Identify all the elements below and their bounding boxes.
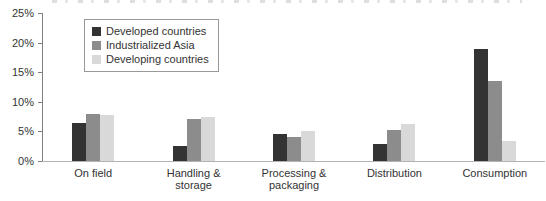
x-category-label: On field — [43, 167, 143, 191]
legend-swatch-icon — [92, 27, 101, 36]
bar — [201, 117, 215, 161]
bar-chart: 25%20%15%10%5%0% Developed countriesIndu… — [0, 0, 546, 201]
x-category-label: Consumption — [445, 167, 545, 191]
bar — [301, 131, 315, 161]
x-category-label: Distribution — [344, 167, 444, 191]
bar — [173, 146, 187, 161]
x-category-label: Processing & packaging — [244, 167, 344, 191]
bar — [100, 115, 114, 161]
bar — [502, 141, 516, 161]
y-tick-label: 25% — [2, 7, 34, 19]
y-tick-label: 5% — [2, 125, 34, 137]
y-tick-label: 20% — [2, 37, 34, 49]
bar-group — [344, 13, 444, 161]
legend-item: Industrialized Asia — [92, 39, 209, 52]
bar — [86, 114, 100, 161]
bar — [373, 144, 387, 161]
bar — [387, 130, 401, 161]
y-tick-label: 10% — [2, 96, 34, 108]
legend-swatch-icon — [92, 41, 101, 50]
y-tick-label: 0% — [2, 155, 34, 167]
bar — [401, 124, 415, 161]
cropped-text-remnant — [52, 0, 522, 3]
bar-group — [445, 13, 545, 161]
x-axis-line — [42, 161, 545, 162]
y-tick-label: 15% — [2, 66, 34, 78]
legend-label: Developing countries — [106, 53, 209, 66]
bar — [287, 137, 301, 161]
legend: Developed countriesIndustrialized AsiaDe… — [84, 19, 219, 72]
bar — [72, 123, 86, 162]
bar-group — [244, 13, 344, 161]
legend-label: Developed countries — [106, 25, 206, 38]
bar — [474, 49, 488, 162]
legend-item: Developing countries — [92, 53, 209, 66]
bar — [488, 81, 502, 162]
x-category-label: Handling & storage — [143, 167, 243, 191]
bar — [273, 134, 287, 161]
legend-item: Developed countries — [92, 25, 209, 38]
bar — [187, 119, 201, 161]
legend-label: Industrialized Asia — [106, 39, 195, 52]
x-axis-labels: On fieldHandling & storageProcessing & p… — [43, 167, 545, 191]
legend-swatch-icon — [92, 55, 101, 64]
